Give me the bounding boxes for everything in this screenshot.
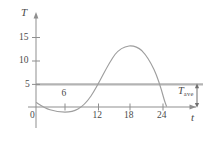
t-ave-measure-arrow <box>195 84 199 108</box>
y-tick-label-15: 15 <box>19 33 29 43</box>
x-tick-label-0: 0 <box>30 111 35 121</box>
x-axis-label: t <box>191 112 194 123</box>
x-axis-arrowhead <box>190 105 197 110</box>
y-tick-label-10: 10 <box>19 56 29 66</box>
y-tick-label-5: 5 <box>25 80 30 90</box>
chart-canvas <box>0 0 210 144</box>
temperature-curve <box>37 46 167 112</box>
chart-figure: T t 15 10 5 0 6 12 18 24 Tave <box>0 0 210 144</box>
t-ave-label-base: T <box>178 85 184 96</box>
x-tick-label-6: 6 <box>62 89 67 99</box>
x-tick-label-12: 12 <box>93 111 103 121</box>
x-tick-label-24: 24 <box>157 111 167 121</box>
y-axis-label: T <box>21 7 27 18</box>
y-axis-arrowhead <box>34 12 39 19</box>
t-ave-label-subscript: ave <box>184 90 194 97</box>
x-tick-label-18: 18 <box>124 111 134 121</box>
t-ave-label: Tave <box>178 86 193 97</box>
